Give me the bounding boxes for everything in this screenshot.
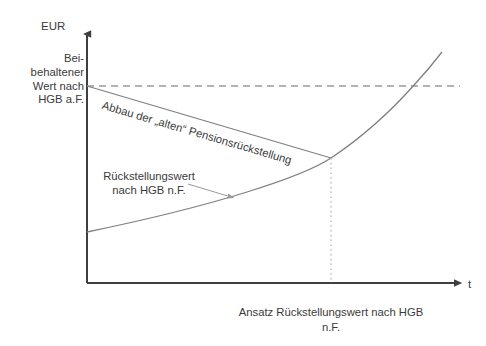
label-retained-value-old-hgb: Bei- behaltener Wert nach HGB a.F. <box>4 52 84 107</box>
new-provision-curve <box>87 52 442 232</box>
x-axis-label: t <box>468 277 471 291</box>
y-axis-label: EUR <box>41 19 65 33</box>
label-provision-value-new-hgb: Rückstellungswert nach HGB n.F. <box>86 170 212 198</box>
pension-provision-diagram: EUR t Bei- behaltener Wert nach HGB a.F.… <box>0 0 486 346</box>
old-provision-decline-line <box>87 86 331 158</box>
caption-recognition-point: Ansatz Rückstellungswert nach HGB n.F. <box>231 305 431 336</box>
